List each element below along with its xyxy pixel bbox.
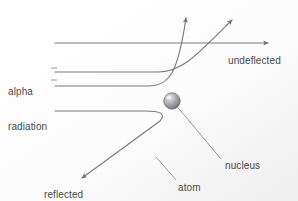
label-alpha-radiation-line2: radiation xyxy=(8,121,47,133)
label-atom: atom xyxy=(178,182,201,194)
label-reflected-back: reflected back xyxy=(44,166,83,201)
label-undeflected: undeflected xyxy=(228,55,281,67)
nucleus-sphere-highlight xyxy=(166,96,171,100)
nucleus-sphere xyxy=(164,93,180,109)
label-reflected-back-line1: reflected xyxy=(44,189,83,201)
label-alpha-radiation: alpha radiation xyxy=(8,63,47,155)
nucleus-sphere-body xyxy=(164,93,180,109)
rutherford-scattering-figure: alpha radiation undeflected nucleus atom… xyxy=(0,0,298,201)
label-alpha-radiation-line1: alpha xyxy=(8,86,47,98)
label-nucleus: nucleus xyxy=(225,160,260,172)
